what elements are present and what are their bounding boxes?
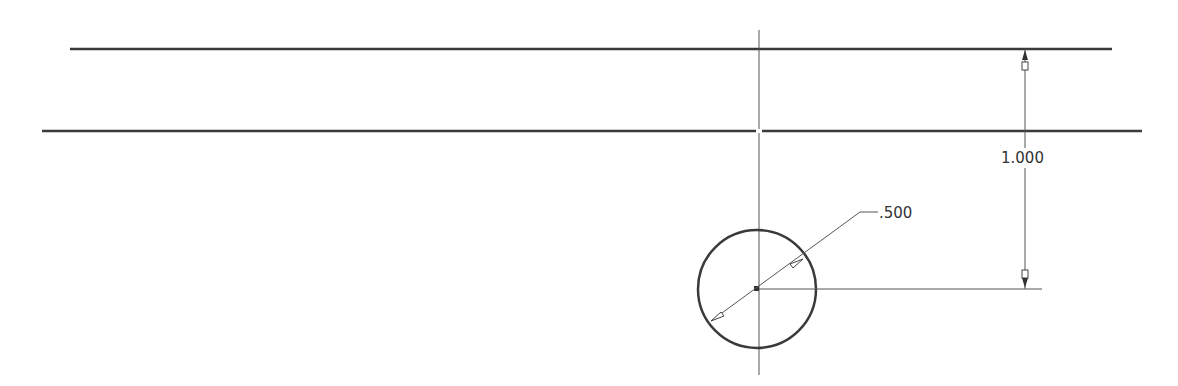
dimension-grip-bottom[interactable]	[1022, 270, 1028, 278]
dimension-grip-top[interactable]	[1022, 62, 1028, 70]
arrow-up-icon	[1022, 50, 1028, 60]
arrow-hollow-icon	[711, 312, 724, 321]
arrow-hollow-icon	[790, 259, 803, 268]
linear-dimension[interactable]: 1.000	[1001, 49, 1044, 289]
cad-sketch-canvas[interactable]: 1.000 .500	[0, 0, 1178, 386]
diameter-dimension-value[interactable]: .500	[879, 204, 912, 222]
diameter-dimension[interactable]: .500	[711, 204, 912, 321]
arrow-down-icon	[1022, 278, 1028, 288]
diameter-leader	[711, 212, 860, 321]
linear-dimension-value[interactable]: 1.000	[1001, 149, 1044, 167]
